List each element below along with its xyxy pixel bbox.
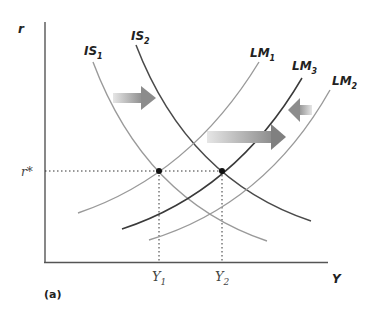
equilibrium-point-2 [219,168,225,174]
lm1-label: LM1 [250,46,275,63]
lm2-label: LM2 [332,74,358,91]
panel-label: (a) [44,288,61,301]
is-lm-diagram: r Y r* Y1 Y2 IS1 IS2 LM1 LM3 LM2 (a) [0,0,370,320]
lm3-label: LM3 [292,59,318,76]
y1-tick-label: Y1 [152,269,166,287]
x-axis-label: Y [332,272,342,286]
r-star-label: r* [21,165,33,179]
y-axis-label: r [18,22,25,36]
lm-shift-left-arrow-icon [288,98,312,122]
is1-label: IS1 [84,44,103,61]
lm-shift-right-arrow-icon [207,124,286,150]
y2-tick-label: Y2 [215,269,230,287]
is2-label: IS2 [131,29,150,46]
equilibrium-point-1 [156,168,162,174]
is-shift-right-arrow-icon [113,86,156,110]
